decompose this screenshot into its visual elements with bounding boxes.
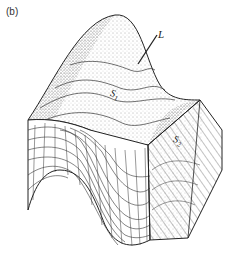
fold-block-diagram-graphic (0, 0, 230, 262)
panel-label: (b) (6, 6, 18, 17)
hinge-line-label: L (158, 28, 164, 40)
